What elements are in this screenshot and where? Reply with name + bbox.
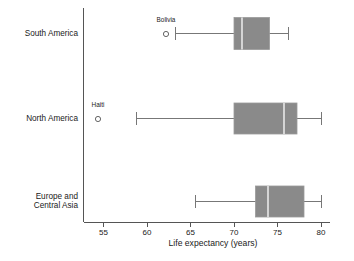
x-tick-label-70: 70	[230, 228, 239, 237]
box-europe-central-asia	[256, 186, 305, 217]
category-label-europe-line2: Central Asia	[34, 201, 79, 210]
x-tick-label-55: 55	[99, 228, 108, 237]
x-tick-label-65: 65	[186, 228, 195, 237]
outlier-label-haiti: Haiti	[92, 101, 105, 108]
boxplot-chart: 55 60 65 70 75 80 Life expectancy (years…	[0, 0, 354, 261]
x-tick-label-60: 60	[143, 228, 152, 237]
category-label-europe-line1: Europe and	[36, 192, 79, 201]
boxplot-canvas: 55 60 65 70 75 80 Life expectancy (years…	[0, 0, 354, 261]
x-axis-title: Life expectancy (years)	[169, 238, 258, 248]
outlier-label-bolivia: Bolivia	[157, 16, 176, 23]
box-north-america	[234, 103, 297, 134]
chart-background	[0, 0, 354, 261]
x-tick-label-80: 80	[317, 228, 326, 237]
box-south-america	[234, 18, 270, 50]
category-label-south-america: South America	[25, 29, 79, 38]
x-tick-label-75: 75	[273, 228, 282, 237]
category-label-north-america: North America	[26, 114, 78, 123]
